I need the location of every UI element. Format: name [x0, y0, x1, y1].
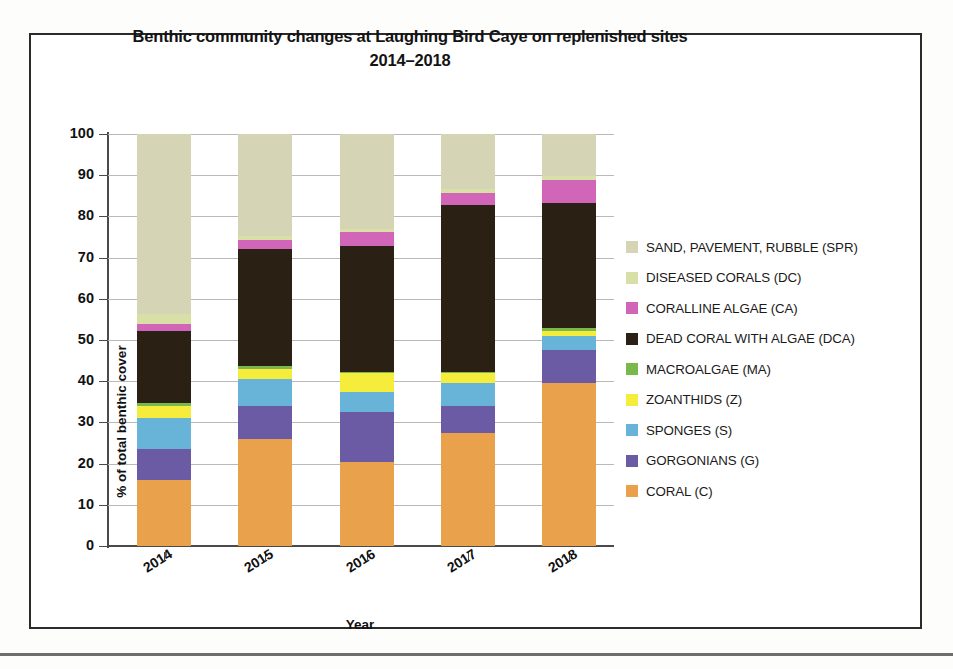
bar-segment-2014-SPR	[137, 134, 191, 314]
legend-item-label: MACROALGAE (MA)	[646, 362, 771, 377]
legend-item-8[interactable]: CORAL (C)	[626, 476, 926, 507]
bar-2017	[441, 134, 495, 546]
bar-segment-2014-C	[137, 480, 191, 546]
chart-title-line-1: Benthic community changes at Laughing Bi…	[133, 27, 688, 45]
y-axis-tick-labels: 0102030405060708090100	[48, 0, 94, 669]
bar-segment-2016-DCA	[340, 246, 394, 372]
legend-swatch-icon	[626, 241, 638, 253]
page-bottom-rule	[0, 653, 953, 656]
bar-segment-2017-SPR	[441, 134, 495, 189]
legend-item-label: ZOANTHIDS (Z)	[646, 392, 742, 407]
bar-segment-2014-G	[137, 449, 191, 480]
legend-swatch-icon	[626, 272, 638, 284]
bar-segment-2018-C	[542, 383, 596, 546]
legend-item-3[interactable]: DEAD CORAL WITH ALGAE (DCA)	[626, 324, 926, 355]
y-tick-label-90: 90	[54, 166, 94, 182]
bar-segment-2017-C	[441, 433, 495, 546]
bar-segment-2016-C	[340, 462, 394, 546]
legend-item-label: CORAL (C)	[646, 484, 713, 499]
bar-segment-2015-DCA	[238, 249, 292, 366]
bar-segment-2016-MA	[340, 372, 394, 373]
chart-legend: SAND, PAVEMENT, RUBBLE (SPR)DISEASED COR…	[626, 232, 926, 507]
x-axis-tick-labels: 20142015201620172018	[107, 552, 614, 612]
legend-item-6[interactable]: SPONGES (S)	[626, 415, 926, 446]
y-tick-label-50: 50	[54, 331, 94, 347]
bar-segment-2016-S	[340, 392, 394, 413]
bar-2014	[137, 134, 191, 546]
bar-segment-2014-S	[137, 418, 191, 449]
legend-swatch-icon	[626, 424, 638, 436]
legend-swatch-icon	[626, 363, 638, 375]
bar-segment-2014-MA	[137, 403, 191, 405]
bar-segment-2015-C	[238, 439, 292, 546]
y-tick-label-30: 30	[54, 413, 94, 429]
legend-item-label: DISEASED CORALS (DC)	[646, 270, 801, 285]
y-tick-label-100: 100	[54, 125, 94, 141]
y-tick-label-10: 10	[54, 496, 94, 512]
legend-swatch-icon	[626, 455, 638, 467]
bar-segment-2017-CA	[441, 193, 495, 205]
legend-item-1[interactable]: DISEASED CORALS (DC)	[626, 263, 926, 294]
bar-segment-2017-DC	[441, 189, 495, 193]
legend-item-label: DEAD CORAL WITH ALGAE (DCA)	[646, 331, 855, 346]
bar-segment-2016-Z	[340, 373, 394, 392]
chart-page: Benthic community changes at Laughing Bi…	[0, 0, 953, 669]
bar-2015	[238, 134, 292, 546]
legend-item-label: CORALLINE ALGAE (CA)	[646, 301, 798, 316]
legend-item-7[interactable]: GORGONIANS (G)	[626, 446, 926, 477]
bar-segment-2016-DC	[340, 229, 394, 232]
legend-item-label: SAND, PAVEMENT, RUBBLE (SPR)	[646, 240, 858, 255]
legend-item-4[interactable]: MACROALGAE (MA)	[626, 354, 926, 385]
bar-2018	[542, 134, 596, 546]
bar-segment-2015-CA	[238, 240, 292, 249]
bar-segment-2015-Z	[238, 369, 292, 379]
y-tick-label-70: 70	[54, 249, 94, 265]
legend-item-0[interactable]: SAND, PAVEMENT, RUBBLE (SPR)	[626, 232, 926, 263]
legend-item-label: GORGONIANS (G)	[646, 453, 759, 468]
bar-segment-2017-MA	[441, 372, 495, 373]
legend-swatch-icon	[626, 302, 638, 314]
bar-segment-2015-DC	[238, 236, 292, 240]
legend-swatch-icon	[626, 485, 638, 497]
bar-segment-2014-DC	[137, 314, 191, 324]
bar-segment-2015-MA	[238, 366, 292, 368]
bar-segment-2017-S	[441, 383, 495, 406]
y-tick-label-80: 80	[54, 207, 94, 223]
bar-segment-2014-CA	[137, 324, 191, 331]
bar-segment-2015-G	[238, 406, 292, 439]
legend-item-5[interactable]: ZOANTHIDS (Z)	[626, 385, 926, 416]
bar-segment-2015-SPR	[238, 134, 292, 236]
bar-segment-2016-CA	[340, 232, 394, 246]
bar-segment-2017-DCA	[441, 205, 495, 372]
chart-title: Benthic community changes at Laughing Bi…	[60, 24, 760, 72]
bar-segment-2018-S	[542, 336, 596, 350]
y-tick-label-20: 20	[54, 455, 94, 471]
x-axis-title: Year	[270, 617, 450, 632]
legend-swatch-icon	[626, 394, 638, 406]
bar-segment-2018-MA	[542, 328, 596, 330]
y-tick-label-60: 60	[54, 290, 94, 306]
y-tick-label-40: 40	[54, 372, 94, 388]
legend-swatch-icon	[626, 333, 638, 345]
bar-segment-2018-Z	[542, 331, 596, 336]
bar-segment-2018-CA	[542, 180, 596, 203]
bar-segment-2018-DC	[542, 176, 596, 180]
y-tick-label-0: 0	[54, 537, 94, 553]
bar-segment-2017-G	[441, 406, 495, 433]
stacked-bars	[107, 134, 614, 546]
bar-segment-2017-Z	[441, 373, 495, 383]
bar-segment-2016-SPR	[340, 134, 394, 229]
bar-segment-2014-Z	[137, 406, 191, 418]
bar-segment-2016-G	[340, 412, 394, 461]
chart-title-line-2: 2014–2018	[60, 48, 760, 72]
bar-2016	[340, 134, 394, 546]
legend-item-label: SPONGES (S)	[646, 423, 732, 438]
bar-segment-2015-S	[238, 379, 292, 406]
bar-segment-2018-SPR	[542, 134, 596, 176]
y-tick-0	[99, 546, 108, 547]
bar-segment-2018-DCA	[542, 203, 596, 329]
bar-segment-2018-G	[542, 350, 596, 383]
legend-item-2[interactable]: CORALLINE ALGAE (CA)	[626, 293, 926, 324]
bar-segment-2014-DCA	[137, 331, 191, 403]
